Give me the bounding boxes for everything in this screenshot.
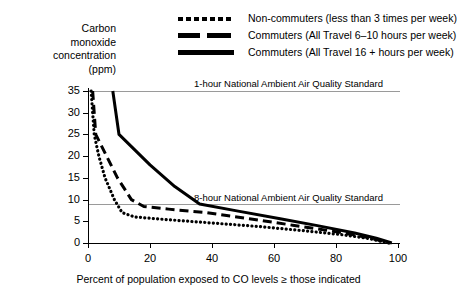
series-line-0 bbox=[91, 91, 389, 243]
series-line-1 bbox=[93, 91, 391, 243]
x-axis-title: Percent of population exposed to CO leve… bbox=[0, 273, 437, 285]
